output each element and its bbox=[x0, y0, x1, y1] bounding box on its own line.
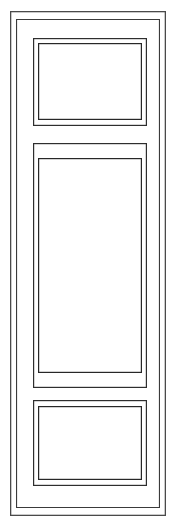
bottom-panel bbox=[34, 401, 147, 486]
top-panel-face bbox=[40, 45, 140, 118]
door-drawing-canvas bbox=[0, 0, 175, 526]
middle-panel-face bbox=[40, 160, 140, 371]
middle-panel bbox=[34, 144, 147, 388]
door-elevation-drawing bbox=[0, 0, 175, 526]
bottom-panel-face bbox=[40, 408, 140, 478]
top-panel bbox=[34, 39, 147, 126]
